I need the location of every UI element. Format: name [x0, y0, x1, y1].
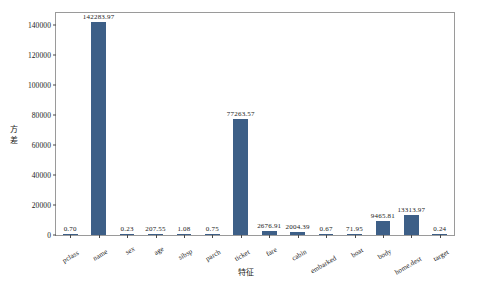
x-tick-label: age — [152, 245, 165, 257]
bar-value-label: 0.75 — [206, 225, 219, 233]
x-tick-label: parch — [205, 248, 223, 263]
x-tick-mark — [212, 235, 213, 238]
y-tick-mark — [53, 55, 56, 56]
x-tick-mark — [269, 235, 270, 238]
bar-value-label: 0.67 — [320, 225, 333, 233]
bar-group: 2004.39 — [290, 13, 305, 235]
bar-group: 71.95 — [347, 13, 362, 235]
x-tick-mark — [184, 235, 185, 238]
x-tick-label: boat — [349, 246, 364, 259]
x-tick-mark — [241, 235, 242, 238]
bar-group: 0.75 — [205, 13, 220, 235]
x-tick-mark — [127, 235, 128, 238]
y-tick-mark — [53, 25, 56, 26]
x-axis-label: 特征 — [0, 266, 492, 277]
x-tick-mark — [383, 235, 384, 238]
x-tick-mark — [440, 235, 441, 238]
bar-group: 207.55 — [148, 13, 163, 235]
y-tick-mark — [53, 235, 56, 236]
bar[interactable] — [91, 22, 106, 235]
x-tick-mark — [326, 235, 327, 238]
y-axis-label: 方差 — [8, 124, 19, 146]
bar-group: 142283.97 — [91, 13, 106, 235]
x-tick-mark — [99, 235, 100, 238]
y-tick-label: 100000 — [28, 81, 56, 90]
y-tick-mark — [53, 145, 56, 146]
x-tick-label: body — [376, 247, 392, 261]
bar-value-label: 0.70 — [64, 225, 77, 233]
bar-value-label: 2004.39 — [286, 223, 310, 231]
x-tick-label: name — [91, 248, 108, 263]
x-tick-mark — [70, 235, 71, 238]
bar-group: 0.67 — [319, 13, 334, 235]
x-tick-label: ticket — [233, 248, 251, 263]
y-tick-mark — [53, 85, 56, 86]
y-tick-label: 120000 — [28, 51, 56, 60]
bar-group: 0.24 — [432, 13, 447, 235]
x-tick-label: sibsp — [177, 247, 194, 261]
bar-value-label: 0.24 — [433, 225, 446, 233]
x-tick-mark — [156, 235, 157, 238]
bar-group: 2676.91 — [262, 13, 277, 235]
bar-value-label: 142283.97 — [83, 13, 115, 21]
x-tick-label: sex — [124, 245, 136, 257]
chart-figure: 方差 0200004000060000800001000001200001400… — [0, 0, 492, 298]
x-tick-label: fare — [265, 246, 279, 259]
y-tick-mark — [53, 205, 56, 206]
bar-group: 77263.57 — [233, 13, 248, 235]
x-tick-mark — [411, 235, 412, 238]
bar-value-label: 1.08 — [177, 225, 190, 233]
bar-group: 9465.81 — [376, 13, 391, 235]
bar-value-label: 0.23 — [121, 225, 134, 233]
x-tick-label: target — [432, 248, 450, 263]
x-tick-mark — [355, 235, 356, 238]
x-tick-label: pclass — [61, 249, 80, 265]
bar-value-label: 2676.91 — [257, 222, 281, 230]
y-tick-mark — [53, 175, 56, 176]
y-tick-label: 140000 — [28, 21, 56, 30]
x-tick-mark — [298, 235, 299, 238]
y-tick-mark — [53, 115, 56, 116]
bar[interactable] — [233, 119, 248, 235]
bar-value-label: 13313.97 — [397, 206, 425, 214]
plot-area: 020000400006000080000100000120000140000 … — [55, 12, 455, 236]
bar-value-label: 207.55 — [145, 225, 165, 233]
bar-group: 0.23 — [120, 13, 135, 235]
bar-group: 1.08 — [177, 13, 192, 235]
bar-value-label: 71.95 — [346, 225, 363, 233]
bar-group: 0.70 — [63, 13, 78, 235]
bar-value-label: 77263.57 — [227, 110, 255, 118]
bar[interactable] — [376, 221, 391, 235]
bar-value-label: 9465.81 — [371, 212, 395, 220]
bar[interactable] — [404, 215, 419, 235]
bar-group: 13313.97 — [404, 13, 419, 235]
x-tick-label: cabin — [290, 248, 308, 263]
